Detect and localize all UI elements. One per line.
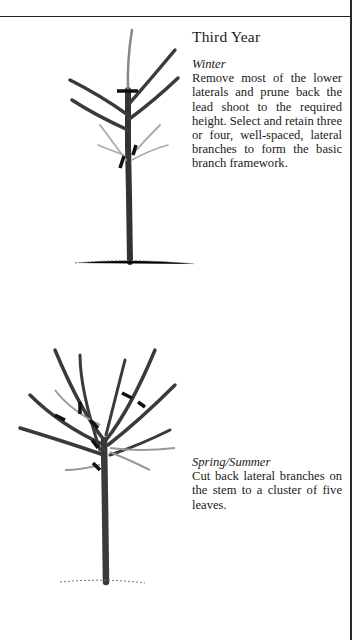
season-label: Winter [192,57,342,71]
right-border-rule [350,0,352,640]
winter-step: Winter Remove most of the lower laterals… [192,57,342,171]
tree-winter-illustration [60,20,200,270]
tree-summer-illustration [0,330,200,640]
section-title: Third Year [192,28,260,46]
summer-step: Spring/Summer Cut back lateral branches … [192,455,342,512]
season-label: Spring/Summer [192,455,342,469]
step-instruction: Cut back lateral branches on the stem to… [192,469,342,511]
step-instruction: Remove most of the lower laterals and pr… [192,71,342,170]
top-border-rule [0,16,351,17]
